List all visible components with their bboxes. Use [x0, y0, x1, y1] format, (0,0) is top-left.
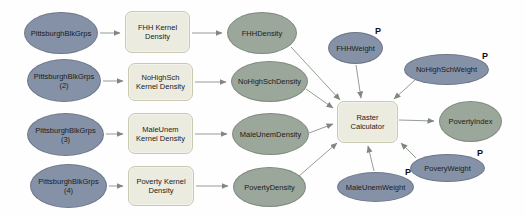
parameter-badge-poveryweight: P [477, 149, 483, 158]
tool-raster-calculator[interactable]: Raster Calculator [337, 101, 398, 143]
node-poveryweight[interactable]: PoveryWeight [410, 154, 485, 182]
node-nohighschweight[interactable]: NoHighSchWeight [404, 54, 489, 85]
node-pittsburghblkgrps-2[interactable]: PittsburghBlkGrps (2) [27, 59, 101, 102]
node-pittsburghblkgrps-3[interactable]: PittsburghBlkGrps (3) [27, 113, 104, 156]
node-povertydensity[interactable]: PovertyDensity [233, 167, 306, 207]
node-maleunemweight[interactable]: MaleUnemWeight [337, 172, 414, 202]
node-pittsburghblkgrps-4[interactable]: PittsburghBlkGrps (4) [30, 164, 107, 208]
node-maleunemdensity[interactable]: MaleUnemDensity [232, 113, 309, 155]
parameter-badge-nohighschweight: P [482, 52, 488, 61]
tool-nohighsch-kernel-density[interactable]: NoHighSch Kernel Density [128, 63, 193, 101]
node-fhhdensity[interactable]: FHHDensity [227, 12, 297, 54]
node-nohighschdensity[interactable]: NoHighSchDensity [231, 61, 308, 102]
tool-fhh-kernel-density[interactable]: FHH Kernel Density [125, 11, 190, 53]
tool-maleunem-kernel-density[interactable]: MaleUnem Kernel Density [128, 113, 193, 154]
parameter-badge-fhhweight: P [375, 27, 381, 36]
tool-poverty-kernel-density[interactable]: Poverty Kernel Density [128, 166, 194, 206]
node-pittsburghblkgrps-1[interactable]: PittsburghBlkGrps [24, 12, 98, 54]
node-povertyindex[interactable]: PovertyIndex [439, 101, 502, 142]
modelbuilder-diagram: PittsburghBlkGrps PittsburghBlkGrps (2) … [0, 0, 526, 216]
node-fhhweight[interactable]: FHHWeight [328, 32, 383, 64]
